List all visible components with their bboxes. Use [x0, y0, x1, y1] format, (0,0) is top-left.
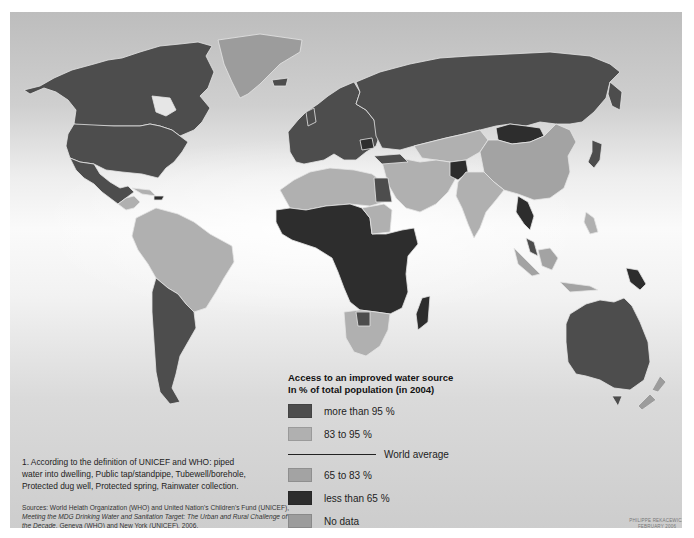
region-romania — [360, 138, 374, 150]
footnote-line: water into dwelling, Public tap/standpip… — [22, 468, 312, 480]
swatch-more-than-95 — [288, 404, 312, 418]
footnote-line: Protected dug well, Protected spring, Ra… — [22, 480, 312, 492]
region-iceland — [272, 78, 288, 86]
region-madagascar — [416, 296, 430, 330]
region-greenland — [218, 34, 302, 98]
region-tasmania — [612, 396, 622, 406]
region-kamchatka — [608, 82, 622, 110]
sources: Sources: World Helath Organization (WHO)… — [22, 503, 292, 528]
region-north-africa — [280, 168, 384, 210]
region-indochina — [516, 196, 534, 230]
region-turkey — [374, 154, 408, 164]
legend-label: less than 65 % — [324, 493, 390, 504]
region-papua-new-guinea — [626, 268, 646, 290]
region-canada-alaska — [24, 42, 214, 136]
sources-suffix: , Geneva (WHO) and New York (UNICEF), 20… — [56, 522, 199, 528]
world-average-label: World average — [384, 449, 449, 460]
region-russia — [356, 52, 620, 150]
legend-item-no-data: No data — [288, 513, 508, 528]
legend-item-more-than-95: more than 95 % — [288, 403, 508, 419]
credit: PHILIPPE REKACEWICZ FEBRUARY 2006 — [622, 518, 682, 528]
region-malaysia — [526, 238, 538, 256]
legend-label: No data — [324, 516, 359, 527]
region-haiti — [154, 196, 164, 200]
swatch-83-to-95 — [288, 427, 312, 441]
region-japan — [588, 140, 602, 168]
credit-date: FEBRUARY 2006 — [622, 524, 682, 528]
legend-item-83-to-95: 83 to 95 % — [288, 426, 508, 442]
region-sub-saharan-africa — [276, 204, 418, 314]
sources-prefix: Sources: World Helath Organization (WHO)… — [22, 504, 289, 511]
legend-item-65-to-83: 65 to 83 % — [288, 467, 508, 483]
region-middle-east — [382, 158, 456, 212]
legend-item-less-than-65: less than 65 % — [288, 490, 508, 506]
footnote-line: 1. According to the definition of UNICEF… — [22, 456, 312, 468]
region-philippines — [584, 212, 598, 234]
map-frame: Access to an improved water source In % … — [10, 12, 682, 528]
legend-label: 65 to 83 % — [324, 470, 372, 481]
region-indonesia — [514, 248, 598, 292]
region-south-america-north — [132, 208, 234, 312]
region-australia — [566, 298, 650, 390]
legend-title: Access to an improved water source In % … — [288, 372, 508, 396]
footnote: 1. According to the definition of UNICEF… — [22, 456, 312, 492]
region-botswana — [356, 312, 370, 326]
world-average-line — [288, 454, 376, 455]
region-cuba — [132, 188, 156, 196]
legend-label: 83 to 95 % — [324, 429, 372, 440]
legend: Access to an improved water source In % … — [288, 372, 508, 528]
legend-label: more than 95 % — [324, 406, 395, 417]
legend-world-average: World average — [288, 448, 508, 460]
legend-title-line2: In % of total population (in 2004) — [288, 384, 508, 396]
legend-title-line1: Access to an improved water source — [288, 372, 508, 384]
